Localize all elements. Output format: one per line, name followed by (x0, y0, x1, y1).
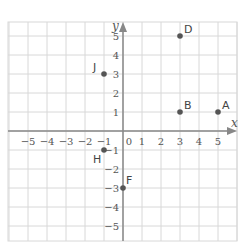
y-tick-label: 5 (113, 31, 119, 42)
y-tick-label: −3 (104, 183, 119, 194)
point-label-d: D (184, 23, 192, 36)
x-axis-label: x (231, 116, 238, 130)
point-j (101, 71, 107, 77)
coordinate-plane: xy−5−4−3−2−1012345−5−4−3−2−112345ABDJHF (0, 0, 245, 252)
x-tick-label: 0 (126, 136, 132, 147)
x-tick-label: 5 (215, 136, 221, 147)
x-tick-label: −4 (40, 136, 55, 147)
y-tick-label: 4 (113, 50, 119, 61)
point-label-f: F (126, 174, 132, 187)
y-tick-label: 1 (113, 107, 119, 118)
point-a (215, 109, 221, 115)
point-label-a: A (222, 99, 230, 112)
x-tick-label: −3 (59, 136, 74, 147)
y-tick-label: 3 (113, 69, 119, 80)
x-tick-label: −2 (78, 136, 93, 147)
point-label-b: B (184, 99, 192, 112)
x-tick-label: 2 (158, 136, 164, 147)
point-d (177, 33, 183, 39)
y-axis-arrow-icon (119, 22, 127, 32)
x-tick-label: −5 (21, 136, 36, 147)
y-tick-label: −5 (104, 221, 119, 232)
x-tick-label: 4 (196, 136, 202, 147)
point-f (120, 185, 126, 191)
x-tick-label: 1 (139, 136, 145, 147)
y-tick-label: −4 (104, 202, 119, 213)
y-tick-label: 2 (113, 88, 119, 99)
x-tick-label: 3 (177, 136, 183, 147)
point-label-h: H (93, 153, 101, 166)
point-b (177, 109, 183, 115)
point-h (101, 147, 107, 153)
y-tick-label: −2 (104, 164, 119, 175)
point-label-j: J (92, 61, 96, 74)
